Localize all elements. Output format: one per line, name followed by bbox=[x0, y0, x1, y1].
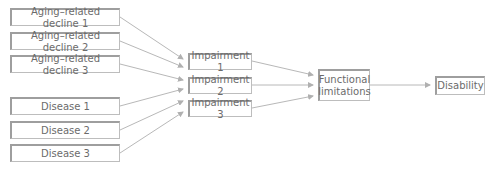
disability-box: Disability bbox=[435, 76, 485, 95]
arrow-disease2-to-impairments bbox=[120, 101, 183, 130]
functional-limitations-box: Functional limitations bbox=[318, 69, 370, 101]
aging-decline-2-box: Aging–related decline 2 bbox=[10, 32, 120, 50]
arrow-aging1-to-impairments bbox=[120, 17, 183, 59]
impairment-2-box: Impairment 2 bbox=[188, 77, 252, 94]
arrow-impairment1-to-functional bbox=[252, 61, 313, 75]
disease-3-box: Disease 3 bbox=[10, 144, 120, 162]
disease-2-box: Disease 2 bbox=[10, 121, 120, 139]
disease-1-box: Disease 1 bbox=[10, 97, 120, 115]
impairment-3-box: Impairment 3 bbox=[188, 100, 252, 117]
impairment-1-box: Impairment 1 bbox=[188, 53, 252, 70]
arrow-disease3-to-impairments bbox=[120, 112, 183, 153]
arrow-disease1-to-impairments bbox=[120, 89, 183, 106]
aging-decline-3-box: Aging–related decline 3 bbox=[10, 55, 120, 73]
arrow-impairment3-to-functional bbox=[252, 96, 313, 108]
arrow-aging3-to-impairments bbox=[120, 64, 183, 80]
aging-decline-1-box: Aging–related decline 1 bbox=[10, 8, 120, 26]
arrow-aging2-to-impairments bbox=[120, 41, 183, 67]
